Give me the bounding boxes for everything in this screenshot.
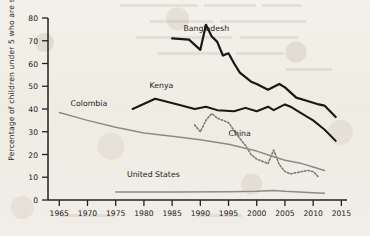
x-tick-label: 2000 (246, 209, 268, 218)
y-tick-label: 80 (20, 14, 38, 23)
series-line-china (195, 114, 319, 178)
x-tick-label: 2015 (330, 209, 352, 218)
data-series-group (59, 25, 335, 193)
y-tick-label: 40 (20, 105, 38, 114)
y-tick-label: 10 (20, 173, 38, 182)
y-tick-label: 70 (20, 37, 38, 46)
x-tick-label: 1980 (133, 209, 155, 218)
x-tick-label: 1985 (161, 209, 183, 218)
series-label-bangladesh: Bangladesh (183, 24, 229, 33)
series-line-bangladesh (172, 25, 336, 117)
x-tick-label: 1970 (76, 209, 98, 218)
y-tick-label: 60 (20, 60, 38, 69)
stunting-line-chart (0, 0, 370, 236)
series-label-united-states: United States (127, 170, 180, 179)
y-tick-label: 30 (20, 128, 38, 137)
x-tick-label: 2010 (302, 209, 324, 218)
y-axis-title: Percentage of children under 5 who are s… (7, 0, 16, 162)
series-label-colombia: Colombia (71, 99, 108, 108)
series-line-united-states (116, 190, 325, 193)
x-tick-label: 1965 (48, 209, 70, 218)
x-tick-label: 2005 (274, 209, 296, 218)
series-label-china: China (229, 129, 251, 138)
x-tick-label: 1975 (105, 209, 127, 218)
y-tick-label: 0 (20, 196, 38, 205)
series-line-colombia (59, 112, 324, 170)
y-axis-ticks (42, 18, 48, 200)
series-label-kenya: Kenya (150, 81, 174, 90)
x-tick-label: 1990 (189, 209, 211, 218)
x-tick-label: 1995 (218, 209, 240, 218)
x-axis-ticks (59, 200, 341, 206)
y-tick-label: 50 (20, 82, 38, 91)
y-tick-label: 20 (20, 151, 38, 160)
